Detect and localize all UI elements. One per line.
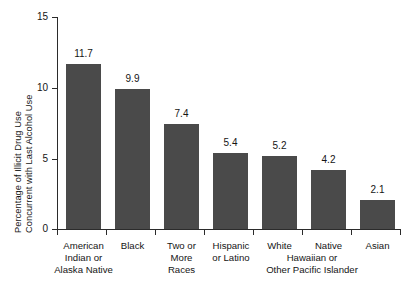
x-category-label-line-1: White [252, 240, 307, 252]
y-axis-title-line-1: Percentage of Illicit Drug Use [13, 111, 25, 233]
y-tick-label-10: 10 [8, 83, 48, 93]
bar-value-hispanic-or-latino: 5.4 [205, 138, 256, 148]
y-axis-title: Percentage of Illicit Drug Use Concurren… [0, 0, 34, 240]
x-tick-mark-0 [57, 230, 58, 235]
x-category-label-line-1: Asian [350, 240, 405, 252]
bar-american-indian-or-alaska-native [66, 64, 101, 229]
x-category-label-black: Black [105, 240, 160, 252]
bar-asian [360, 200, 395, 229]
x-category-label-line-3: Races [154, 264, 209, 276]
x-tick-mark-7 [400, 230, 401, 235]
bar-native-hawaiian-or-other-pacific-islander [311, 170, 346, 229]
x-tick-mark-1 [106, 230, 107, 235]
y-tick-label-15: 15 [8, 12, 48, 22]
bar-value-black: 9.9 [107, 74, 158, 84]
bar-value-white: 5.2 [254, 141, 305, 151]
y-tick-label-5: 5 [8, 154, 48, 164]
x-tick-mark-3 [204, 230, 205, 235]
bar-chart: Percentage of Illicit Drug Use Concurren… [0, 0, 408, 295]
x-tick-mark-2 [155, 230, 156, 235]
x-category-label-asian: Asian [350, 240, 405, 252]
x-category-label-native-hawaiian-or-other-pacific-islander-line1: Native [301, 240, 356, 252]
x-tick-mark-6 [351, 230, 352, 235]
x-tick-mark-5 [302, 230, 303, 235]
x-category-label-line-1: Black [105, 240, 160, 252]
x-category-label-native-hawaiian-or-other-pacific-islander-rest: Hawaiian or Other Pacific Islander [232, 252, 392, 276]
bar-black [115, 89, 150, 229]
x-category-label-line-3: Other Pacific Islander [232, 264, 392, 276]
bar-value-american-indian-or-alaska-native: 11.7 [58, 49, 109, 59]
x-tick-mark-4 [253, 230, 254, 235]
x-category-label-white: White [252, 240, 307, 252]
bar-white [262, 156, 297, 229]
bar-hispanic-or-latino [213, 153, 248, 229]
x-axis-line [57, 229, 401, 230]
y-tick-label-0: 0 [8, 224, 48, 234]
x-category-label-line-2: Hawaiian or [232, 252, 392, 264]
bar-value-asian: 2.1 [352, 185, 403, 195]
bar-value-native-hawaiian-or-other-pacific-islander: 4.2 [303, 155, 354, 165]
x-category-label-line-3: Alaska Native [36, 264, 131, 276]
x-category-label-line-2: Indian or [36, 252, 131, 264]
bar-two-or-more-races [164, 124, 199, 229]
bar-value-two-or-more-races: 7.4 [156, 109, 207, 119]
x-category-label-line-1: Native [301, 240, 356, 252]
